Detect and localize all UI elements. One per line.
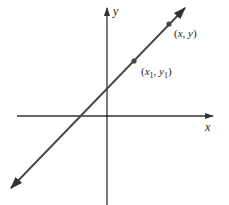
y-axis-label: y [112,4,119,18]
point-x1-y1 [131,58,136,63]
x-axis-label: x [204,120,211,134]
origin-dot [106,115,109,118]
point-x-y-label: (x, y) [174,27,197,40]
point-x-y [166,21,171,26]
point-x1-y1-label: (x1, y1) [141,65,172,80]
coordinate-diagram: y x (x, y) (x1, y1) [0,0,229,205]
line-through-points [11,8,185,188]
